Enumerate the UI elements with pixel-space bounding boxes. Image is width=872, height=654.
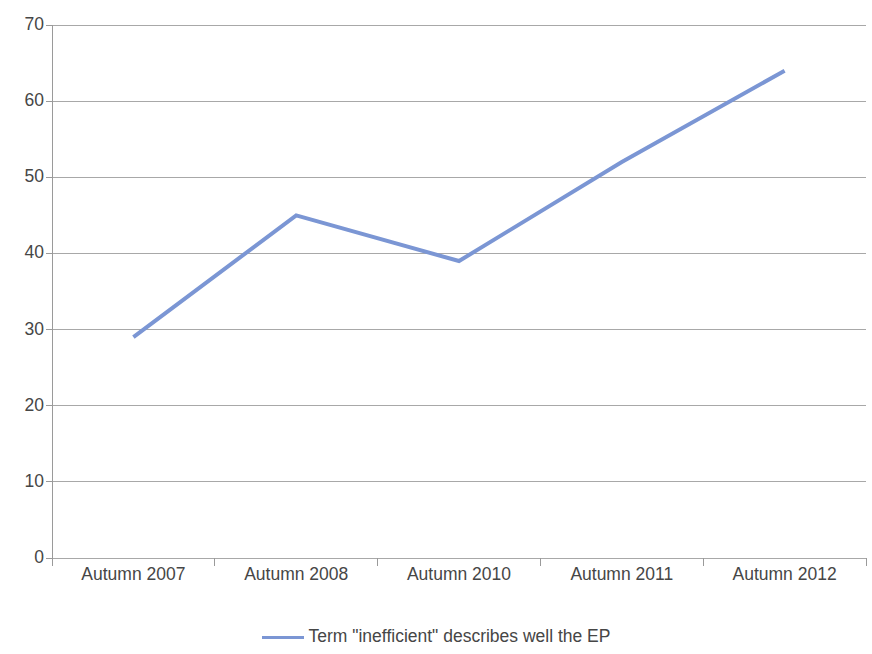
x-axis-tick-label: Autumn 2011 (540, 566, 703, 584)
y-axis-tick-label: 0 (4, 549, 44, 567)
y-axis-tick-label: 10 (4, 473, 44, 491)
chart-legend: Term "inefficient" describes well the EP (0, 622, 872, 652)
x-axis-tick-label: Autumn 2012 (703, 566, 866, 584)
x-axis-tick-labels: Autumn 2007Autumn 2008Autumn 2010Autumn … (52, 566, 866, 596)
legend-line-swatch-icon (262, 636, 304, 639)
x-axis-tick-label: Autumn 2008 (215, 566, 378, 584)
legend-item-series-0: Term "inefficient" describes well the EP (262, 628, 611, 646)
y-axis-tick-label: 30 (4, 321, 44, 339)
chart-plot-area (0, 0, 872, 654)
series-line-0 (133, 71, 784, 338)
legend-item-label: Term "inefficient" describes well the EP (309, 628, 611, 646)
y-axis-tick-label: 40 (4, 244, 44, 262)
y-axis-tick-label: 50 (4, 168, 44, 186)
line-chart: 010203040506070 Autumn 2007Autumn 2008Au… (0, 0, 872, 654)
y-axis-tick-label: 60 (4, 92, 44, 110)
y-axis-tick-label: 20 (4, 397, 44, 415)
y-axis-tick-labels: 010203040506070 (0, 0, 44, 600)
x-axis-tick-label: Autumn 2007 (52, 566, 215, 584)
x-axis-tick-label: Autumn 2010 (378, 566, 541, 584)
y-axis-tick-label: 70 (4, 16, 44, 34)
